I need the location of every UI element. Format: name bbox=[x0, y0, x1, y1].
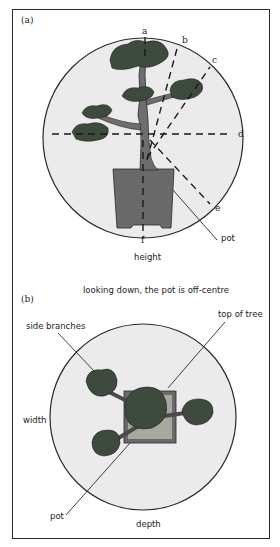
side-branches-label: side branches bbox=[26, 321, 86, 331]
panel-b-label: (b) bbox=[21, 294, 34, 304]
panel-b-heading: looking down, the pot is off-centre bbox=[83, 285, 229, 295]
label-b: b bbox=[182, 35, 188, 45]
caption-depth: depth bbox=[136, 519, 161, 529]
bonsai-diagram: (a) a b c d e f pot height looking down,… bbox=[0, 0, 280, 547]
label-c: c bbox=[212, 55, 217, 65]
label-a: a bbox=[142, 26, 148, 36]
caption-height: height bbox=[134, 252, 162, 262]
top-of-tree-label: top of tree bbox=[218, 309, 263, 319]
label-d: d bbox=[238, 129, 244, 139]
label-e: e bbox=[215, 203, 220, 213]
width-label: width bbox=[23, 415, 46, 425]
pot-label-a: pot bbox=[221, 233, 236, 243]
pot-label-b: pot bbox=[50, 511, 65, 521]
panel-a-label: (a) bbox=[21, 15, 33, 25]
